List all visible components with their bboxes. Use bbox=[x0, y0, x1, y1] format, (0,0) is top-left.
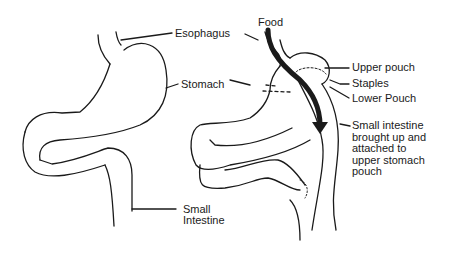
gastric-bypass-diagram: Esophagus Stomach Small Intestine Food U… bbox=[0, 0, 450, 264]
label-attached-5: pouch bbox=[352, 166, 382, 178]
label-stomach: Stomach bbox=[181, 79, 224, 91]
normal-stomach bbox=[23, 32, 167, 226]
label-lower-pouch: Lower Pouch bbox=[352, 93, 416, 105]
label-small-intestine-2: Intestine bbox=[183, 215, 225, 227]
label-attached-1: Small intestine bbox=[352, 120, 424, 132]
label-staples: Staples bbox=[352, 78, 389, 90]
label-upper-pouch: Upper pouch bbox=[352, 62, 415, 74]
bypass-stomach bbox=[191, 32, 338, 240]
label-attached-3: attached to bbox=[352, 143, 406, 155]
label-food: Food bbox=[258, 17, 283, 29]
label-esophagus: Esophagus bbox=[175, 28, 230, 40]
